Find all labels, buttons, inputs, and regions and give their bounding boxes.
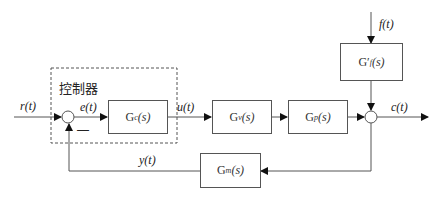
signal-c-label: c(t): [391, 101, 408, 113]
gp-name: G: [305, 110, 314, 125]
signal-r-label: r(t): [20, 100, 36, 112]
gv-name: G: [230, 110, 239, 125]
gf-name: G′: [358, 55, 369, 70]
valve-block-gv: Gv(s): [212, 100, 272, 134]
disturbance-block-gf: G′f(s): [340, 43, 403, 81]
signal-f-label: f(t): [379, 18, 394, 30]
measurement-block-gm: Gm(s): [200, 153, 261, 188]
gc-name: G: [126, 110, 135, 125]
signal-u-label: u(t): [177, 101, 194, 113]
gm-arg: (s): [231, 163, 244, 178]
gf-arg: (s): [372, 55, 385, 70]
controller-block-gc: Gc(s): [108, 100, 168, 134]
signal-e-label: e(t): [80, 101, 97, 113]
gm-name: G: [217, 163, 226, 178]
feedback-minus-sign: —: [77, 123, 89, 137]
gc-arg: (s): [138, 110, 151, 125]
controller-label: 控制器: [59, 78, 98, 97]
gv-arg: (s): [242, 110, 255, 125]
gp-arg: (s): [318, 110, 331, 125]
process-block-gp: Gp(s): [288, 100, 348, 134]
signal-y-label: y(t): [139, 154, 156, 166]
